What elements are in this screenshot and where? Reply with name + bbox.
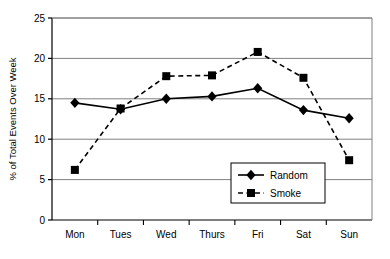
y-tick-label-10: 10 bbox=[34, 134, 46, 145]
x-tick-label-mon: Mon bbox=[65, 229, 84, 240]
y-tick-label-5: 5 bbox=[39, 174, 45, 185]
y-tick-label-15: 15 bbox=[34, 93, 46, 104]
x-tick-label-sun: Sun bbox=[340, 229, 358, 240]
y-tick-label-25: 25 bbox=[34, 13, 46, 24]
data-point-smoke-mon bbox=[71, 166, 79, 174]
x-tick-label-thurs: Thurs bbox=[199, 229, 225, 240]
legend: RandomSmoke bbox=[231, 163, 325, 203]
y-axis: 0510152025 bbox=[34, 13, 52, 226]
data-point-random-wed bbox=[162, 94, 171, 104]
y-axis-title: % of Total Events Over Week bbox=[7, 57, 18, 180]
legend-marker-smoke bbox=[247, 189, 255, 197]
data-point-random-fri bbox=[253, 83, 262, 93]
y-tick-label-0: 0 bbox=[39, 215, 45, 226]
data-point-smoke-tues bbox=[117, 104, 125, 112]
x-axis: MonTuesWedThursFriSatSun bbox=[65, 220, 358, 240]
data-point-smoke-sun bbox=[345, 156, 353, 164]
legend-label-random: Random bbox=[270, 170, 308, 181]
data-point-random-sat bbox=[299, 105, 308, 115]
data-point-random-thurs bbox=[207, 91, 216, 101]
chart-canvas: 0510152025MonTuesWedThursFriSatSun% of T… bbox=[0, 0, 390, 259]
series-random bbox=[70, 83, 353, 123]
data-point-random-sun bbox=[345, 113, 354, 123]
x-tick-label-wed: Wed bbox=[156, 229, 176, 240]
legend-label-smoke: Smoke bbox=[270, 188, 302, 199]
data-point-smoke-sat bbox=[299, 74, 307, 82]
x-tick-label-fri: Fri bbox=[252, 229, 264, 240]
x-tick-label-tues: Tues bbox=[110, 229, 132, 240]
x-tick-label-sat: Sat bbox=[296, 229, 311, 240]
data-point-smoke-thurs bbox=[208, 71, 216, 79]
line-chart: 0510152025MonTuesWedThursFriSatSun% of T… bbox=[0, 0, 390, 259]
y-tick-label-20: 20 bbox=[34, 53, 46, 64]
data-point-smoke-fri bbox=[254, 48, 262, 56]
data-point-smoke-wed bbox=[162, 72, 170, 80]
